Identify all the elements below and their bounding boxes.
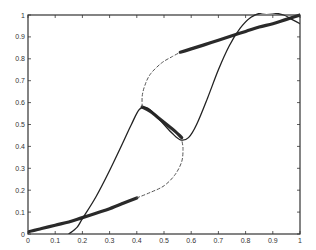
y-axis-ticks: 00.10.20.30.40.50.60.70.80.91	[15, 12, 300, 238]
x-tick-label: 0.4	[132, 237, 142, 244]
series-stable-upper-branch	[180, 15, 300, 52]
y-tick-label: 1	[21, 12, 25, 19]
series-approximation-curve	[69, 12, 300, 234]
y-tick-label: 0.5	[15, 121, 25, 128]
series-unstable-upper-connector	[142, 52, 180, 107]
chart: 00.10.20.30.40.50.60.70.80.91 00.10.20.3…	[0, 0, 316, 250]
series-layer	[28, 12, 300, 234]
x-tick-label: 0.7	[214, 237, 224, 244]
x-tick-label: 0.5	[159, 237, 169, 244]
x-axis-ticks: 00.10.20.30.40.50.60.70.80.91	[26, 15, 302, 244]
y-tick-label: 0.7	[15, 77, 25, 84]
y-tick-label: 0.6	[15, 99, 25, 106]
x-tick-label: 0.9	[268, 237, 278, 244]
x-tick-label: 0.8	[241, 237, 251, 244]
y-tick-label: 0.9	[15, 33, 25, 40]
x-tick-label: 0.2	[78, 237, 88, 244]
y-tick-label: 0.4	[15, 143, 25, 150]
x-tick-label: 1	[298, 237, 302, 244]
x-tick-label: 0	[26, 237, 30, 244]
x-tick-label: 0.3	[105, 237, 115, 244]
y-tick-label: 0.8	[15, 55, 25, 62]
y-tick-label: 0.2	[15, 187, 25, 194]
series-stable-lower-branch	[28, 198, 137, 232]
y-tick-label: 0.3	[15, 165, 25, 172]
y-tick-label: 0	[21, 231, 25, 238]
x-tick-label: 0.6	[186, 237, 196, 244]
y-tick-label: 0.1	[15, 209, 25, 216]
x-tick-label: 0.1	[50, 237, 60, 244]
series-unstable-lower-connector	[137, 140, 183, 198]
